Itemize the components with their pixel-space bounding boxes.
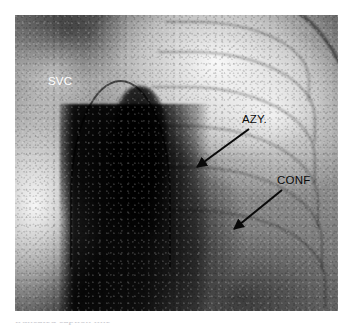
film-grain-texture	[15, 15, 338, 311]
chest-radiograph-image	[15, 15, 338, 311]
truncated-caption-band: truncated caption line	[15, 322, 338, 330]
figure-root: SVC AZY. CONF truncated caption line	[0, 0, 350, 330]
caption-text: truncated caption line	[15, 322, 110, 325]
